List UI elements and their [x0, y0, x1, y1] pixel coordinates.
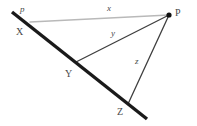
vertex-label-P: P [175, 8, 181, 18]
vertex-label-X: X [16, 27, 23, 37]
segment-label-y: y [111, 29, 115, 38]
segment-label-z: z [135, 57, 139, 66]
line-name-label-p: p [20, 5, 25, 14]
figure-canvas [0, 0, 197, 126]
geometry-figure: p P X Y Z x y z [0, 0, 197, 126]
segment-label-x: x [107, 4, 111, 13]
vertex-dot-p [166, 12, 171, 17]
vertex-label-Y: Y [65, 69, 72, 79]
vertex-label-Z: Z [117, 107, 123, 117]
